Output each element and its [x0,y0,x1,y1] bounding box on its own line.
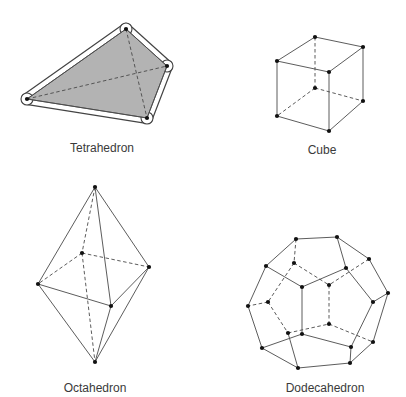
octahedron-figure [36,185,151,364]
visible-edge [277,61,329,72]
hidden-edge [82,253,149,267]
visible-edge [296,237,337,239]
visible-edge [95,267,149,362]
vertex-dot [275,114,279,118]
vertex-dot [266,300,270,304]
visible-edge [262,348,298,368]
vertex-dot [300,332,304,336]
visible-edge [277,37,315,61]
vertex-dot [93,360,97,364]
visible-edge [277,116,329,131]
cube-label: Cube [308,143,337,157]
tetrahedron-label: Tetrahedron [70,141,134,155]
vertex-dot [361,99,365,103]
vertex-dot [335,235,339,239]
hidden-edge [315,88,363,101]
dodecahedron-label: Dodecahedron [286,381,365,395]
visible-edge [248,266,266,306]
vertex-dot [371,340,375,344]
hidden-edge [248,302,268,306]
cube-figure [275,35,365,133]
vertex-dot [344,266,348,270]
vertex-dot [147,265,151,269]
vertex-dot [313,35,317,39]
visible-edge [248,306,262,348]
vertex-dot [275,59,279,63]
vertex-dot [292,261,296,265]
visible-edge [337,237,369,259]
visible-edge [288,333,298,368]
visible-edge [337,237,346,268]
hidden-edge [329,324,373,342]
visible-edge [95,187,149,267]
tetrahedron-figure [21,23,173,124]
vertex-dot [264,264,268,268]
vertex-dot [260,346,264,350]
hidden-edge [82,253,95,362]
hidden-edge [82,187,95,253]
hidden-edge [268,263,294,302]
visible-edge [329,47,363,72]
hidden-edge [288,324,329,333]
visible-edge [38,284,95,362]
visible-edge [329,101,363,131]
visible-edge [350,342,373,363]
visible-edge [302,268,346,287]
vertex-dot [386,291,390,295]
visible-edge [302,334,351,347]
vertex-dot [327,283,331,287]
visible-edge [38,187,95,284]
vertex-dot [348,361,352,365]
vertex-dot [349,345,353,349]
visible-edge [38,284,111,306]
vertex-dot [361,45,365,49]
vertex-dot [327,129,331,133]
vertex-dot [165,64,169,68]
vertex-dot [300,285,304,289]
vertex-dot [80,251,84,255]
vertex-dot [327,322,331,326]
vertex-dot [124,27,128,31]
vertex-dot [294,237,298,241]
visible-edge [346,268,373,302]
vertex-dot [296,366,300,370]
octahedron-label: Octahedron [64,381,127,395]
polyhedra-diagram: Tetrahedron Cube Octahedron Dodecahedron [0,0,406,397]
visible-edge [266,266,302,287]
visible-edge [262,334,302,348]
visible-edge [95,306,111,362]
visible-edge [266,239,296,266]
vertex-dot [36,282,40,286]
vertex-dot [246,304,250,308]
dodecahedron-figure [246,235,390,370]
hidden-edge [268,302,288,333]
hidden-edge [294,263,329,285]
visible-edge [350,347,351,363]
vertex-dot [367,257,371,261]
vertex-dot [371,300,375,304]
vertex-dot [145,116,149,120]
vertex-dot [286,331,290,335]
hidden-edge [277,88,315,116]
vertex-dot [327,70,331,74]
visible-edge [315,37,363,47]
vertex-dot [109,304,113,308]
visible-edge [95,187,111,306]
hidden-edge [38,253,82,284]
visible-edge [369,259,388,293]
hidden-edge [294,239,296,263]
visible-edge [298,363,350,368]
polyhedra-canvas [0,0,406,397]
vertex-dot [25,97,29,101]
vertex-dot [93,185,97,189]
vertex-dot [313,86,317,90]
